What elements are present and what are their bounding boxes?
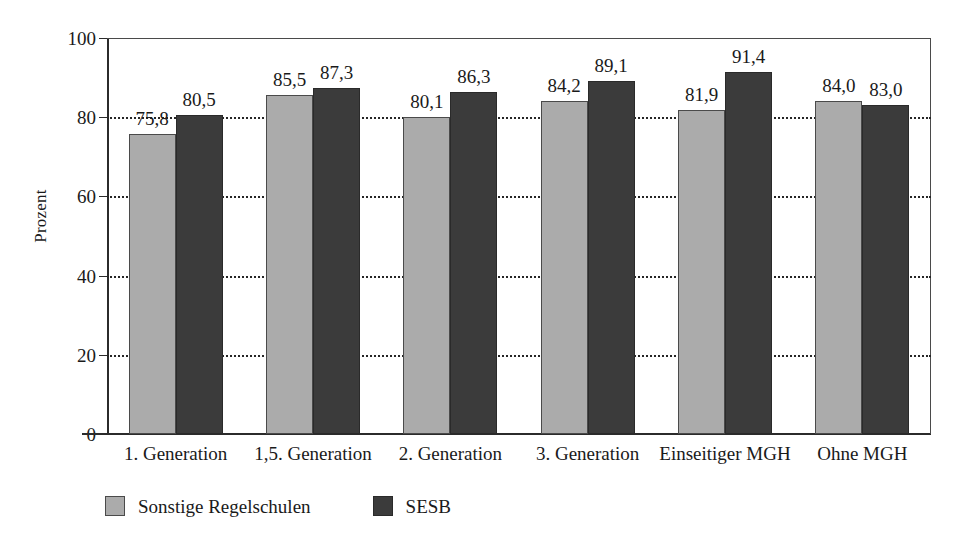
bar[interactable]: [588, 81, 635, 434]
legend-item-sesb[interactable]: SESB: [373, 496, 451, 516]
bar[interactable]: [725, 72, 772, 434]
bar[interactable]: [862, 105, 909, 434]
bar[interactable]: [450, 92, 497, 434]
bar-value-label: 80,5: [183, 90, 216, 109]
legend-label: Sonstige Regelschulen: [138, 497, 311, 516]
x-axis-category-label: 2. Generation: [399, 444, 502, 463]
legend: Sonstige Regelschulen SESB: [105, 496, 451, 516]
bar[interactable]: [678, 110, 725, 434]
bar-value-label: 84,0: [822, 76, 855, 95]
plot-frame-right-border: [930, 38, 931, 434]
bar[interactable]: [815, 101, 862, 434]
bar[interactable]: [403, 117, 450, 434]
gridline: [107, 117, 931, 119]
y-axis-tick-label: 20: [48, 345, 96, 364]
plot-area: [107, 38, 931, 434]
gridline: [107, 196, 931, 198]
gridline: [107, 355, 931, 357]
bar-value-label: 80,1: [410, 92, 443, 111]
bar-value-label: 89,1: [595, 56, 628, 75]
x-axis-category-label: Einseitiger MGH: [659, 444, 790, 463]
x-axis-category-label: 1,5. Generation: [254, 444, 372, 463]
legend-swatch-icon: [105, 496, 125, 516]
legend-label: SESB: [406, 497, 451, 516]
bar[interactable]: [176, 115, 223, 434]
y-axis-tick-label: 60: [48, 187, 96, 206]
bar-value-label: 75,8: [136, 109, 169, 128]
gridline: [107, 276, 931, 278]
bar-value-label: 91,4: [732, 47, 765, 66]
x-axis-category-label: 3. Generation: [536, 444, 639, 463]
bar-value-label: 81,9: [685, 85, 718, 104]
legend-item-sonstige-regelschulen[interactable]: Sonstige Regelschulen: [105, 496, 311, 516]
bar[interactable]: [266, 95, 313, 434]
y-axis-tick-label: 40: [48, 266, 96, 285]
bar-value-label: 84,2: [548, 76, 581, 95]
bar[interactable]: [541, 101, 588, 434]
y-axis-tick-label: 100: [48, 29, 96, 48]
bar-value-label: 85,5: [273, 70, 306, 89]
x-axis-category-label: 1. Generation: [124, 444, 227, 463]
bar-value-label: 86,3: [457, 67, 490, 86]
bar-value-label: 87,3: [320, 63, 353, 82]
y-axis-tick-label: 80: [48, 108, 96, 127]
x-axis-category-label: Ohne MGH: [817, 444, 907, 463]
legend-swatch-icon: [373, 496, 393, 516]
bar[interactable]: [129, 134, 176, 434]
bar-chart: Prozent 020406080100 75,880,585,587,380,…: [0, 0, 965, 544]
y-axis-tick-labels: 020406080100: [36, 0, 96, 544]
bar-value-label: 83,0: [869, 80, 902, 99]
plot-frame-top-border: [107, 38, 931, 39]
bar[interactable]: [313, 88, 360, 434]
